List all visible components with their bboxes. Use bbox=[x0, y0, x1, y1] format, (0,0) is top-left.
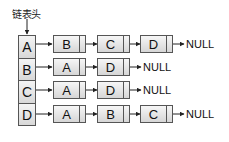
node-pointer bbox=[80, 59, 85, 75]
list-node: D bbox=[97, 58, 130, 76]
node-value: D bbox=[98, 82, 124, 98]
node-pointer bbox=[124, 36, 129, 52]
node-pointer bbox=[124, 59, 129, 75]
null-terminator: NULL bbox=[143, 84, 171, 96]
null-terminator: NULL bbox=[186, 108, 214, 120]
node-value: D bbox=[98, 59, 124, 75]
list-node: A bbox=[53, 81, 86, 99]
null-terminator: NULL bbox=[186, 38, 214, 50]
list-node: A bbox=[53, 58, 86, 76]
node-value: A bbox=[54, 59, 80, 75]
node-value: A bbox=[54, 82, 80, 98]
list-node: D bbox=[140, 35, 173, 53]
list-node: C bbox=[140, 105, 173, 123]
node-value: C bbox=[98, 36, 124, 52]
node-pointer bbox=[124, 82, 129, 98]
node-value: C bbox=[141, 106, 167, 122]
null-terminator: NULL bbox=[143, 61, 171, 73]
list-node: B bbox=[97, 105, 130, 123]
list-node: B bbox=[53, 35, 86, 53]
node-pointer bbox=[80, 106, 85, 122]
head-node-b: B bbox=[18, 58, 36, 81]
head-node-c: C bbox=[18, 80, 36, 104]
adjacency-list-diagram: 链表头 A B C D B C D NULL A D NULL A D NULL… bbox=[0, 0, 229, 142]
list-node: C bbox=[97, 35, 130, 53]
node-pointer bbox=[80, 36, 85, 52]
head-node-a: A bbox=[18, 35, 36, 59]
list-node: D bbox=[97, 81, 130, 99]
list-node: A bbox=[53, 105, 86, 123]
node-value: B bbox=[98, 106, 124, 122]
head-node-d: D bbox=[18, 103, 36, 126]
node-pointer bbox=[80, 82, 85, 98]
node-value: A bbox=[54, 106, 80, 122]
node-pointer bbox=[124, 106, 129, 122]
node-value: B bbox=[54, 36, 80, 52]
node-pointer bbox=[167, 106, 172, 122]
node-value: D bbox=[141, 36, 167, 52]
node-pointer bbox=[167, 36, 172, 52]
list-head-label: 链表头 bbox=[12, 6, 41, 21]
